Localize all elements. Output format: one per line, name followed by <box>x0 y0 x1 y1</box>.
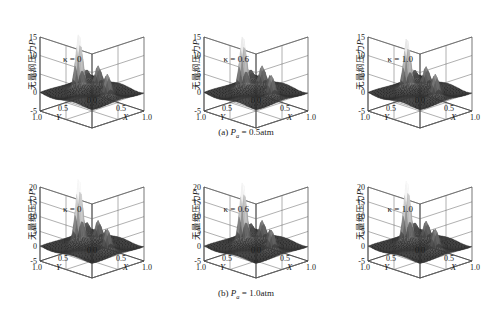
svg-text:15: 15 <box>29 33 37 42</box>
plot-row-a: 无量纲压力P -505101500.51.0X1.00.50Yκ = 0 无量纲… <box>0 0 492 130</box>
svg-text:Y: Y <box>56 262 62 272</box>
svg-text:5: 5 <box>361 227 365 236</box>
plot-panel-a2: 无量纲压力P -505101500.51.0X1.00.50Yκ = 1.0 <box>328 0 492 130</box>
svg-text:1.0: 1.0 <box>142 263 152 272</box>
svg-text:10: 10 <box>29 212 37 221</box>
plot-panel-a1: 无量纲压力P -505101500.51.0X1.00.50Yκ = 0.6 <box>164 0 328 130</box>
svg-text:20: 20 <box>29 183 37 192</box>
svg-text:Y: Y <box>384 112 390 122</box>
svg-text:κ = 0: κ = 0 <box>63 54 82 64</box>
svg-text:X: X <box>450 262 457 272</box>
surface-plot: -50510152000.51.0X1.00.50Yκ = 1.0 <box>354 156 486 268</box>
surface-plot: -505101500.51.0X1.00.50Yκ = 0.6 <box>190 6 322 118</box>
svg-text:0: 0 <box>197 242 201 251</box>
svg-text:0: 0 <box>361 88 365 97</box>
svg-text:0: 0 <box>87 246 91 255</box>
surface-plot: -505101500.51.0X1.00.50Yκ = 0 <box>26 6 158 118</box>
svg-text:10: 10 <box>193 51 201 60</box>
svg-text:κ = 0.6: κ = 0.6 <box>224 204 250 214</box>
svg-text:10: 10 <box>357 51 365 60</box>
svg-text:Y: Y <box>384 262 390 272</box>
svg-text:10: 10 <box>193 212 201 221</box>
svg-text:0: 0 <box>415 96 419 105</box>
svg-text:κ = 0: κ = 0 <box>63 204 82 214</box>
svg-text:1.0: 1.0 <box>196 113 206 122</box>
svg-text:1.0: 1.0 <box>196 263 206 272</box>
svg-text:κ = 1.0: κ = 1.0 <box>388 54 414 64</box>
svg-text:X: X <box>286 112 293 122</box>
surface-svg: -505101500.51.0X1.00.50Yκ = 0.6 <box>190 6 322 118</box>
svg-text:1.0: 1.0 <box>470 263 480 272</box>
svg-text:10: 10 <box>29 51 37 60</box>
svg-text:0: 0 <box>197 88 201 97</box>
svg-text:Y: Y <box>220 262 226 272</box>
svg-text:15: 15 <box>357 33 365 42</box>
svg-text:0: 0 <box>33 242 37 251</box>
svg-text:15: 15 <box>193 198 201 207</box>
plot-row-b: 无量纲压力P -50510152000.51.0X1.00.50Yκ = 0 无… <box>0 150 492 290</box>
svg-text:1.0: 1.0 <box>470 113 480 122</box>
svg-text:Y: Y <box>56 112 62 122</box>
svg-text:X: X <box>122 262 129 272</box>
svg-text:Y: Y <box>220 112 226 122</box>
svg-text:5: 5 <box>361 70 365 79</box>
svg-text:X: X <box>122 112 129 122</box>
plot-panel-b1: 无量纲压力P -50510152000.51.0X1.00.50Yκ = 0.6 <box>164 150 328 280</box>
svg-text:1.0: 1.0 <box>32 113 42 122</box>
caption-row-b: (b) Pa = 1.0atm <box>0 288 492 300</box>
svg-text:15: 15 <box>357 198 365 207</box>
svg-text:0: 0 <box>251 96 255 105</box>
caption-row-a: (a) Pa = 0.5atm <box>0 127 492 139</box>
svg-text:0: 0 <box>93 96 97 105</box>
surface-svg: -50510152000.51.0X1.00.50Yκ = 0 <box>26 156 158 268</box>
svg-text:1.0: 1.0 <box>142 113 152 122</box>
figure-surface-plots: 无量纲压力P -505101500.51.0X1.00.50Yκ = 0 无量纲… <box>0 0 492 309</box>
svg-text:10: 10 <box>357 212 365 221</box>
svg-text:0: 0 <box>93 246 97 255</box>
svg-text:0: 0 <box>421 246 425 255</box>
svg-text:5: 5 <box>197 227 201 236</box>
svg-text:0: 0 <box>361 242 365 251</box>
svg-text:κ = 0.6: κ = 0.6 <box>224 54 250 64</box>
plot-panel-b0: 无量纲压力P -50510152000.51.0X1.00.50Yκ = 0 <box>0 150 164 280</box>
svg-text:X: X <box>286 262 293 272</box>
surface-svg: -50510152000.51.0X1.00.50Yκ = 0.6 <box>190 156 322 268</box>
svg-text:0: 0 <box>421 96 425 105</box>
surface-svg: -505101500.51.0X1.00.50Yκ = 0 <box>26 6 158 118</box>
svg-text:15: 15 <box>193 33 201 42</box>
surface-svg: -505101500.51.0X1.00.50Yκ = 1.0 <box>354 6 486 118</box>
svg-text:1.0: 1.0 <box>32 263 42 272</box>
svg-text:1.0: 1.0 <box>360 113 370 122</box>
surface-plot: -505101500.51.0X1.00.50Yκ = 1.0 <box>354 6 486 118</box>
svg-text:0: 0 <box>257 246 261 255</box>
surface-plot: -50510152000.51.0X1.00.50Yκ = 0 <box>26 156 158 268</box>
svg-text:0: 0 <box>257 96 261 105</box>
svg-text:1.0: 1.0 <box>306 263 316 272</box>
svg-text:20: 20 <box>357 183 365 192</box>
svg-text:X: X <box>450 112 457 122</box>
svg-text:0: 0 <box>87 96 91 105</box>
svg-text:15: 15 <box>29 198 37 207</box>
plot-panel-b2: 无量纲压力P -50510152000.51.0X1.00.50Yκ = 1.0 <box>328 150 492 280</box>
svg-text:0: 0 <box>415 246 419 255</box>
svg-text:0: 0 <box>251 246 255 255</box>
svg-text:κ = 1.0: κ = 1.0 <box>388 204 414 214</box>
svg-text:20: 20 <box>193 183 201 192</box>
svg-text:0: 0 <box>33 88 37 97</box>
svg-text:5: 5 <box>197 70 201 79</box>
svg-text:5: 5 <box>33 227 37 236</box>
surface-svg: -50510152000.51.0X1.00.50Yκ = 1.0 <box>354 156 486 268</box>
surface-plot: -50510152000.51.0X1.00.50Yκ = 0.6 <box>190 156 322 268</box>
svg-text:1.0: 1.0 <box>360 263 370 272</box>
svg-text:1.0: 1.0 <box>306 113 316 122</box>
svg-text:5: 5 <box>33 70 37 79</box>
plot-panel-a0: 无量纲压力P -505101500.51.0X1.00.50Yκ = 0 <box>0 0 164 130</box>
